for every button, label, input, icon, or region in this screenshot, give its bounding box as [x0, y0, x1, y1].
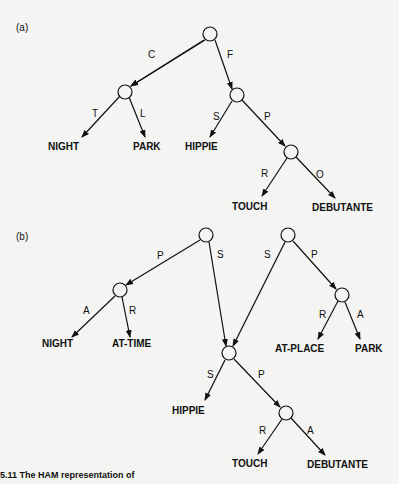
edge-label: T — [92, 108, 98, 119]
edge-label: P — [157, 250, 164, 261]
tree-a-terminals: NIGHT PARK HIPPIE TOUCH DEBUTANTE — [48, 141, 373, 213]
terminal-debutante: DEBUTANTE — [307, 459, 368, 470]
node-b-left — [113, 283, 127, 297]
edge-label: R — [319, 309, 326, 320]
node-a-root — [203, 27, 217, 41]
edge-label: R — [261, 168, 268, 179]
edge-label: P — [311, 249, 318, 260]
edge-label: A — [83, 305, 90, 316]
tree-a-edge-labels: C F T L S P R O — [92, 49, 324, 180]
terminal-hippie: HIPPIE — [172, 405, 205, 416]
edge-label: L — [140, 108, 146, 119]
node-a-f — [230, 88, 244, 102]
panel-b-label: (b) — [16, 231, 28, 242]
edge-label: R — [129, 305, 136, 316]
edge-label: A — [357, 309, 364, 320]
edge-label: S — [264, 249, 271, 260]
tree-b-terminals: NIGHT AT-TIME AT-PLACE PARK HIPPIE TOUCH… — [42, 338, 383, 470]
edge-label: F — [227, 49, 233, 60]
terminal-touch: TOUCH — [232, 201, 267, 212]
tree-a — [82, 40, 335, 198]
edge-label: S — [217, 249, 224, 260]
terminal-hippie: HIPPIE — [185, 141, 218, 152]
tree-a-nodes — [118, 27, 298, 159]
terminal-at-time: AT-TIME — [112, 338, 152, 349]
edge-label: O — [316, 169, 324, 180]
diagram-canvas: (a) C F — [0, 0, 399, 484]
terminal-debutante: DEBUTANTE — [312, 202, 373, 213]
edge-label: R — [259, 425, 266, 436]
edge-label: P — [258, 369, 265, 380]
panel-a-label: (a) — [16, 22, 28, 33]
node-a-c — [118, 85, 132, 99]
node-b-p — [279, 406, 293, 420]
node-b-right — [335, 288, 349, 302]
terminal-park: PARK — [133, 141, 161, 152]
terminal-night: NIGHT — [48, 141, 79, 152]
node-b-shared — [222, 346, 236, 360]
edge-label: C — [148, 49, 155, 60]
terminal-at-place: AT-PLACE — [275, 343, 325, 354]
edge-label: A — [307, 425, 314, 436]
edge-label: S — [213, 111, 220, 122]
terminal-touch: TOUCH — [232, 458, 267, 469]
node-b-root-1 — [199, 228, 213, 242]
terminal-park: PARK — [355, 343, 383, 354]
terminal-night: NIGHT — [42, 338, 73, 349]
figure-caption: 5.11 The HAM representation of — [0, 470, 135, 480]
edge-label: P — [264, 111, 271, 122]
node-b-root-2 — [281, 228, 295, 242]
node-a-p — [284, 145, 298, 159]
edge-label: S — [207, 369, 214, 380]
